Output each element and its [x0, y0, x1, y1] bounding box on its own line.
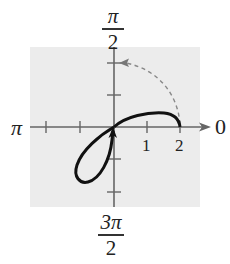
angle-label-bottom-numerator: 3π [100, 212, 121, 233]
radial-tick-label-1: 1 [142, 137, 151, 154]
angle-label-bottom: 3π 2 [98, 212, 124, 259]
radial-tick-label-2: 2 [175, 137, 184, 154]
angle-label-top-numerator: π [108, 6, 119, 27]
angle-label-left: π [11, 117, 22, 139]
polar-graph: π 2 3π 2 π 0 1 2 [0, 0, 230, 264]
angle-label-right: 0 [215, 116, 226, 138]
angle-label-top: π 2 [102, 6, 124, 53]
angle-label-bottom-denominator: 2 [106, 238, 117, 259]
angle-label-top-denominator: 2 [108, 32, 119, 53]
